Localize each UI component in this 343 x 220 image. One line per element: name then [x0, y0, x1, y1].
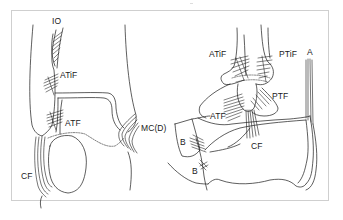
- label-atf-right: ATF: [210, 112, 226, 121]
- ankle-ligament-drawing: [0, 0, 343, 220]
- left-anterior-view: [30, 25, 139, 208]
- label-atf-left: ATF: [65, 119, 81, 128]
- label-ptf-right: PTF: [272, 92, 288, 101]
- label-atif-left: ATiF: [60, 71, 77, 80]
- label-b-lower: B: [192, 167, 198, 176]
- label-mcd-left: MC(D): [141, 124, 167, 133]
- label-cf-left: CF: [21, 172, 33, 181]
- label-io-left: IO: [52, 17, 61, 26]
- label-ptif-right: PTiF: [279, 50, 297, 59]
- label-b-upper: B: [180, 138, 186, 147]
- label-cf-right: CF: [251, 142, 263, 151]
- label-atif-right: ATiF: [209, 50, 226, 59]
- label-a-right: A: [307, 48, 313, 57]
